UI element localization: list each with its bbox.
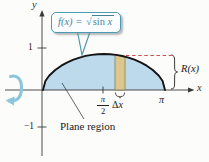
- pi-over-2-denominator: 2: [97, 105, 109, 116]
- y-axis-label: y: [32, 0, 37, 11]
- delta-x-label: Δx: [112, 100, 123, 110]
- y-axis-arrowhead: [39, 10, 44, 17]
- x-tick-label-pi: π: [159, 95, 164, 105]
- radicand-function: sin: [93, 16, 108, 27]
- sqrt-radical-sign: √: [86, 16, 92, 27]
- formula-prefix: f(x) =: [58, 16, 85, 27]
- formula-callout: f(x) = √sin x: [51, 12, 121, 33]
- delta-variable: x: [118, 99, 122, 110]
- x-tick-label-pi-over-2: π 2: [97, 95, 109, 115]
- radius-label: R(x): [181, 64, 199, 75]
- y-tick-label-neg-one: −1: [24, 122, 34, 132]
- representative-rectangle: [115, 55, 125, 90]
- plane-region-label: Plane region: [60, 121, 115, 132]
- volume-of-revolution-figure: f(x) = √sin x y x 1 −1 π 2 Δx π R(x) Pla…: [0, 0, 209, 162]
- radicand-variable: x: [108, 16, 113, 27]
- plane-region-fill: [43, 54, 165, 90]
- y-tick-label-one: 1: [28, 43, 33, 53]
- rotation-arrow-icon: [6, 76, 22, 105]
- x-axis-label: x: [197, 83, 202, 94]
- pi-over-2-numerator: π: [97, 95, 109, 105]
- delta-x-brace: [116, 93, 125, 99]
- sqrt-radicand: sin x: [92, 15, 115, 27]
- radius-brace: [171, 55, 178, 89]
- x-axis-arrowhead: [188, 87, 195, 92]
